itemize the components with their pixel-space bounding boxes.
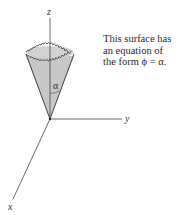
y-axis-label: y bbox=[124, 113, 130, 124]
caption-line: an equation of bbox=[103, 45, 184, 57]
caption-line: the form ϕ = α. bbox=[103, 56, 184, 68]
origin-point bbox=[49, 118, 51, 120]
x-axis bbox=[13, 119, 50, 199]
caption-line: This surface has bbox=[103, 33, 184, 45]
z-axis-label: z bbox=[46, 6, 51, 17]
angle-alpha-label: α bbox=[53, 80, 59, 91]
x-axis-label: x bbox=[7, 201, 13, 212]
caption: This surface has an equation of the form… bbox=[103, 33, 184, 68]
